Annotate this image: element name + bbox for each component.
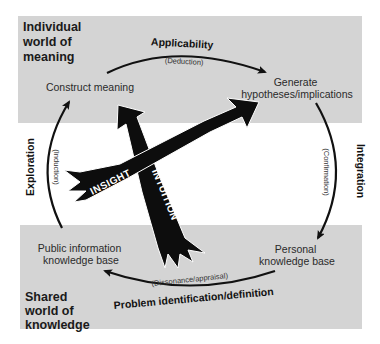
construct-meaning-node: Construct meaning	[46, 81, 134, 93]
confirmation-label: (Confirmation)	[322, 148, 331, 196]
induction-label: (Induction)	[52, 149, 61, 185]
inquiry-cycle-diagram: Individual world of meaning Shared world…	[0, 0, 380, 344]
public-knowledge-base-node: Public information knowledge base	[38, 242, 124, 266]
exploration-label: Exploration	[24, 138, 36, 196]
integration-label: Integration	[355, 144, 367, 198]
